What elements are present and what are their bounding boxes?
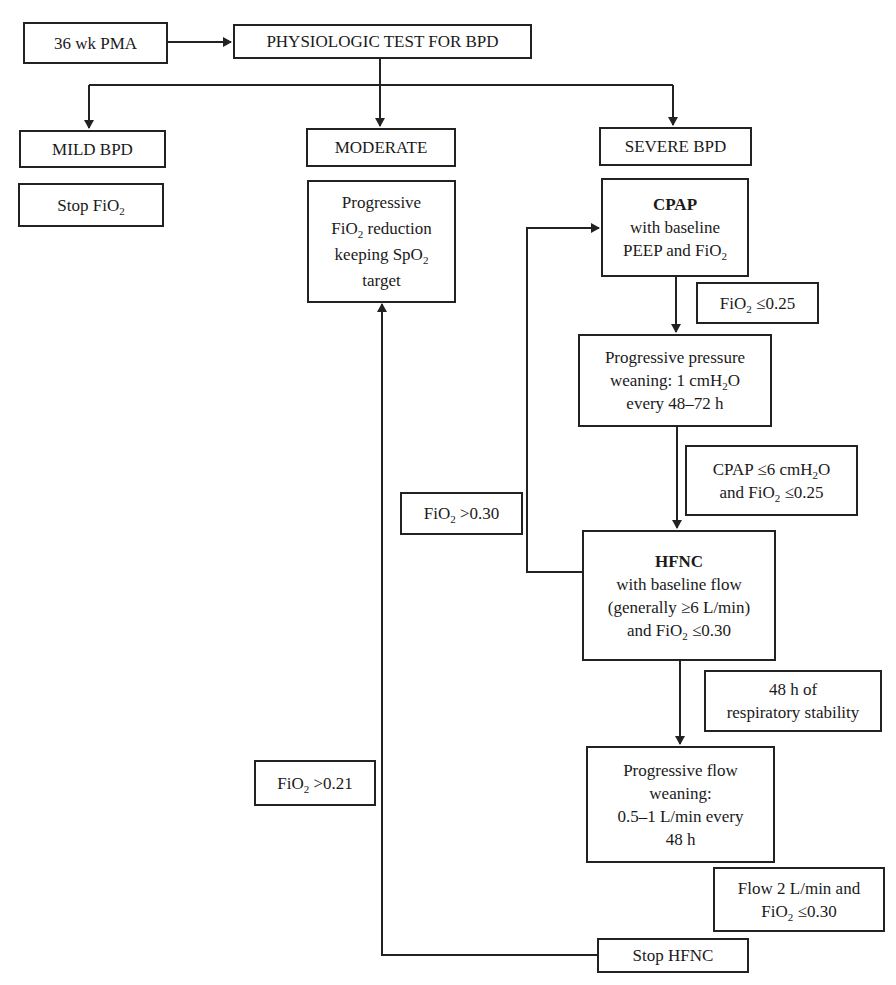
node-progressive-fio2-reduction: Progressive FiO2 reduction keeping SpO2 … — [307, 180, 456, 303]
node-severe-bpd: SEVERE BPD — [599, 127, 752, 166]
node-36wk-pma: 36 wk PMA — [23, 22, 168, 64]
condition-48h-stability: 48 h of respiratory stability — [704, 670, 882, 732]
condition-fio2-gt-030: FiO2 >0.30 — [400, 492, 523, 535]
arrow-stophfnc-to-reduction — [382, 304, 597, 955]
node-stop-fio2: Stop FiO2 — [18, 183, 164, 227]
node-cpap: CPAP with baseline PEEP and FiO2 — [601, 178, 749, 277]
condition-fio2-gt-021: FiO2 >0.21 — [254, 760, 376, 806]
node-progressive-pressure-weaning: Progressive pressure weaning: 1 cmH2O ev… — [578, 334, 772, 427]
condition-flow-2-lmin: Flow 2 L/min and FiO2 ≤0.30 — [713, 867, 885, 932]
node-physiologic-test: PHYSIOLOGIC TEST FOR BPD — [233, 24, 532, 59]
node-stop-hfnc: Stop HFNC — [597, 938, 749, 973]
condition-fio2-le-025: FiO2 ≤0.25 — [696, 282, 819, 324]
condition-cpap-le-6: CPAP ≤6 cmH2O and FiO2 ≤0.25 — [685, 445, 858, 516]
bpd-weaning-flowchart: 36 wk PMA PHYSIOLOGIC TEST FOR BPD MILD … — [0, 0, 896, 985]
node-hfnc: HFNC with baseline flow (generally ≥6 L/… — [582, 530, 776, 661]
node-mild-bpd: MILD BPD — [19, 130, 166, 168]
node-progressive-flow-weaning: Progressive flow weaning: 0.5–1 L/min ev… — [586, 746, 775, 863]
node-moderate: MODERATE — [306, 128, 456, 167]
